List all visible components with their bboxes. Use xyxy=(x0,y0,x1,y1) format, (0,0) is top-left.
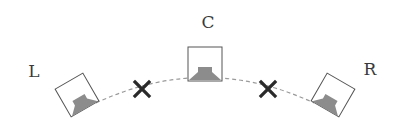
label-left: L xyxy=(28,61,39,81)
label-center: C xyxy=(201,12,214,32)
speaker-left xyxy=(55,73,99,117)
speaker-center xyxy=(188,47,222,81)
speaker-layout-diagram: L C R xyxy=(0,0,398,127)
listener-marker-left-x-icon xyxy=(135,82,149,96)
listener-marker-right-x-icon xyxy=(261,82,275,96)
label-right: R xyxy=(364,59,378,79)
speaker-right xyxy=(311,73,355,117)
